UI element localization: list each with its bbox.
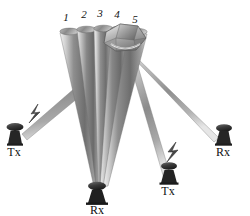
beam-cap-2 [77, 26, 96, 33]
beam-label-1: 1 [63, 11, 69, 23]
station-label-rx-bottom: Rx [90, 203, 104, 216]
beam-label-2: 2 [81, 8, 87, 20]
radar-beam-diagram: Tx Rx Tx Rx 1 2 3 4 5 [0, 0, 250, 216]
station-label-tx-bottom: Tx [161, 184, 174, 198]
beam-cap-1 [60, 28, 79, 35]
station-label-tx-left: Tx [7, 145, 20, 159]
station-label-rx-right: Rx [216, 145, 230, 159]
beam-label-3: 3 [96, 7, 103, 19]
figure-canvas: Tx Rx Tx Rx 1 2 3 4 5 [0, 0, 250, 216]
beam-label-5: 5 [132, 13, 138, 25]
beam-label-4: 4 [114, 8, 120, 20]
